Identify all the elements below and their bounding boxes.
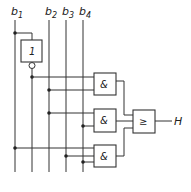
svg-text:&: & [100,151,108,162]
svg-text:&: & [100,115,108,126]
svg-text:b: b [45,5,52,18]
input-label-b4: b 4 [79,5,91,20]
svg-text:b: b [11,5,18,18]
svg-text:≥: ≥ [139,116,147,127]
and-gate-2: & [47,109,133,132]
input-label-b2: b 2 [45,5,57,20]
svg-text:&: & [100,79,108,90]
or-gate: ≥ [133,110,172,133]
svg-text:3: 3 [69,11,74,20]
svg-text:2: 2 [52,11,57,20]
output-label-h: H [174,115,182,128]
not-gate: 1 [13,31,42,172]
logic-circuit-diagram: b 1 b 2 b 3 b 4 1 & [0,0,191,192]
and-gate-3: & [13,128,133,167]
inversion-bubble [29,63,35,69]
svg-text:b: b [62,5,69,18]
input-label-b1: b 1 [11,5,23,20]
input-label-b3: b 3 [62,5,74,20]
svg-text:1: 1 [18,11,23,20]
svg-text:1: 1 [29,46,35,57]
svg-text:4: 4 [86,11,91,20]
svg-text:b: b [79,5,86,18]
